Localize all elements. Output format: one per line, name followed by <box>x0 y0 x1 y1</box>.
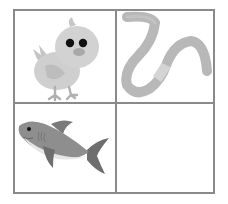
picture-grid-canvas: Chick <box>0 0 228 204</box>
chick-icon <box>15 11 115 102</box>
picture-grid: Chick <box>13 9 215 194</box>
shark-icon <box>15 104 115 192</box>
worm-icon <box>117 11 213 102</box>
grid-cell-top-right[interactable]: Worm <box>117 11 213 102</box>
grid-cell-bottom-left[interactable]: Shark <box>15 104 115 192</box>
grid-cell-bottom-right-empty[interactable] <box>117 104 213 192</box>
grid-cell-top-left[interactable]: Chick <box>15 11 115 102</box>
cell-label <box>117 104 118 105</box>
